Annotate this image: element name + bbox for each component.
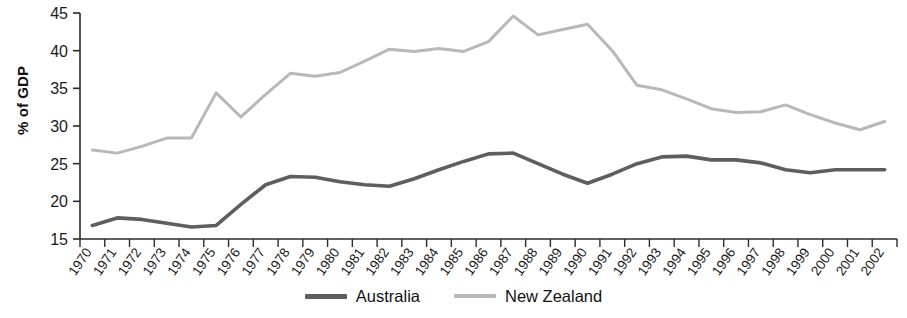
legend-label-australia: Australia (356, 288, 420, 305)
y-tick-label: 25 (50, 156, 68, 173)
y-tick-label: 35 (50, 80, 68, 97)
x-tick-label: 1990 (560, 245, 590, 278)
x-tick-label: 1978 (263, 245, 293, 278)
x-tick-label: 2000 (808, 245, 838, 278)
x-tick-label: 1995 (684, 245, 714, 278)
x-tick-label: 1982 (362, 245, 392, 278)
x-tick-label: 1991 (585, 245, 615, 278)
y-axis-ticks: 15202530354045 (50, 5, 80, 248)
x-tick-label: 1974 (164, 245, 194, 279)
x-tick-label: 1996 (709, 245, 739, 278)
x-tick-label: 1985 (437, 245, 467, 278)
y-tick-label: 30 (50, 118, 68, 135)
legend-swatch-new-zealand (454, 294, 496, 298)
x-tick-label: 1977 (239, 245, 269, 278)
x-tick-label: 1973 (140, 245, 170, 278)
x-tick-label: 1999 (783, 245, 813, 278)
x-tick-label: 1976 (214, 245, 244, 278)
x-tick-label: 1989 (536, 245, 566, 278)
x-tick-label: 1986 (461, 245, 491, 278)
x-tick-label: 1992 (610, 245, 640, 278)
x-tick-label: 1993 (635, 245, 665, 278)
series-line-new-zealand (92, 16, 884, 153)
x-tick-label: 1997 (734, 245, 764, 278)
legend-swatch-australia (305, 294, 347, 299)
x-tick-label: 1980 (313, 245, 343, 278)
legend-label-new-zealand: New Zealand (505, 288, 602, 305)
x-tick-label: 1983 (387, 245, 417, 278)
x-tick-label: 1987 (486, 245, 516, 278)
legend-item-new-zealand[interactable]: New Zealand (454, 288, 602, 305)
x-tick-label: 1972 (115, 245, 145, 278)
x-tick-label: 1994 (659, 245, 689, 279)
x-tick-label: 1970 (65, 245, 95, 278)
x-tick-label: 2002 (858, 245, 888, 278)
x-tick-label: 1975 (189, 245, 219, 278)
x-tick-label: 1981 (338, 245, 368, 278)
y-tick-label: 20 (50, 193, 68, 210)
series-line-australia (92, 153, 884, 227)
line-chart: % of GDP 15202530354045 1970197119721973… (0, 0, 907, 318)
x-tick-label: 2001 (833, 245, 863, 278)
x-tick-label: 1971 (90, 245, 120, 278)
plot-area: 15202530354045 1970197119721973197419751… (0, 0, 907, 290)
x-tick-label: 1988 (511, 245, 541, 278)
data-series-group (92, 16, 884, 227)
x-tick-label: 1979 (288, 245, 318, 278)
y-tick-label: 40 (50, 43, 68, 60)
y-tick-label: 15 (50, 231, 68, 248)
y-tick-label: 45 (50, 5, 68, 22)
x-tick-label: 1998 (759, 245, 789, 278)
x-axis-labels: 1970197119721973197419751976197719781979… (65, 245, 887, 279)
legend-item-australia[interactable]: Australia (305, 288, 420, 305)
chart-legend: Australia New Zealand (0, 288, 907, 305)
x-tick-label: 1984 (412, 245, 442, 279)
